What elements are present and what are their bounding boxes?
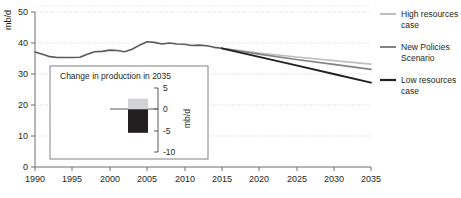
x-axis: 1990 1995 2000 2005 2010 2015 2020 2025 …: [25, 167, 381, 184]
oil-production-line-chart: 50 40 30 20 10 0 mb/d 1990 1995 2000 200…: [0, 0, 461, 198]
inset-tick-0: 0: [163, 104, 168, 114]
series-line-historical: [35, 42, 222, 58]
legend-label-new-policies-line1: New Policies: [401, 42, 450, 52]
y-tick-10: 10: [18, 131, 28, 141]
legend-label-new-policies-line2: Scenario: [401, 53, 435, 63]
inset-bars: [128, 99, 148, 133]
legend-label-low-resources-line2: case: [401, 86, 419, 96]
x-tick-1995: 1995: [62, 174, 82, 184]
inset-unit-label: mb/d: [182, 109, 192, 128]
inset-title: Change in production in 2035: [60, 71, 171, 81]
legend: High resources case New Policies Scenari…: [380, 9, 458, 96]
y-tick-50: 50: [18, 7, 28, 17]
y-tick-40: 40: [18, 38, 28, 48]
legend-label-high-resources-line1: High resources: [401, 9, 458, 19]
x-tick-2010: 2010: [175, 174, 195, 184]
y-tick-0: 0: [23, 162, 28, 172]
x-tick-2020: 2020: [249, 174, 269, 184]
y-axis: 50 40 30 20 10 0 mb/d: [3, 7, 35, 172]
legend-label-high-resources-line2: case: [401, 20, 419, 30]
inset-tick-neg5: -5: [163, 126, 171, 136]
x-tick-2030: 2030: [324, 174, 344, 184]
inset-tick-5: 5: [163, 83, 168, 93]
legend-item-high-resources-case[interactable]: High resources case: [380, 9, 458, 30]
x-tick-1990: 1990: [25, 174, 45, 184]
series-line-high-resources-case: [222, 48, 371, 64]
x-tick-2035: 2035: [361, 174, 381, 184]
legend-item-low-resources-case[interactable]: Low resources case: [380, 75, 456, 96]
x-tick-2025: 2025: [287, 174, 307, 184]
series-line-low-resources-case: [222, 48, 371, 82]
inset-panel: Change in production in 2035 5 0 -5 -10 …: [50, 66, 208, 159]
inset-bar-high-resources-case: [128, 99, 148, 110]
inset-bar-low-resources-case: [128, 109, 148, 132]
y-tick-20: 20: [18, 100, 28, 110]
y-tick-30: 30: [18, 69, 28, 79]
inset-tick-neg10: -10: [163, 147, 176, 157]
y-axis-unit-label: mb/d: [3, 10, 13, 30]
legend-item-new-policies-scenario[interactable]: New Policies Scenario: [380, 42, 450, 63]
x-tick-2015: 2015: [212, 174, 232, 184]
chart-figure: 50 40 30 20 10 0 mb/d 1990 1995 2000 200…: [0, 0, 461, 198]
legend-label-low-resources-line1: Low resources: [401, 75, 456, 85]
x-tick-2005: 2005: [137, 174, 157, 184]
x-tick-2000: 2000: [100, 174, 120, 184]
